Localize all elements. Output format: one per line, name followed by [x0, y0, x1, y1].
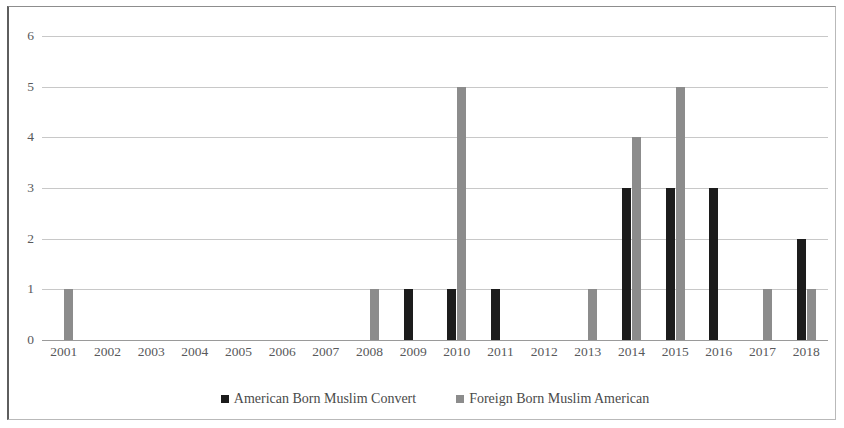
gray-square-icon — [456, 395, 464, 403]
bar — [676, 87, 685, 340]
x-tick-label: 2014 — [610, 344, 654, 360]
year-group — [86, 36, 130, 340]
bar — [64, 289, 73, 340]
chart-legend: American Born Muslim ConvertForeign Born… — [42, 388, 828, 410]
year-group — [348, 36, 392, 340]
year-group — [566, 36, 610, 340]
bar — [370, 289, 379, 340]
bar — [457, 87, 466, 340]
x-tick-label: 2008 — [348, 344, 392, 360]
year-group — [217, 36, 261, 340]
x-tick-label: 2005 — [217, 344, 261, 360]
y-axis: 0123456 — [8, 36, 34, 340]
year-group — [479, 36, 523, 340]
x-tick-label: 2015 — [653, 344, 697, 360]
x-tick-label: 2013 — [566, 344, 610, 360]
y-tick-label: 1 — [8, 283, 34, 297]
x-tick-label: 2001 — [42, 344, 86, 360]
x-tick-label: 2006 — [260, 344, 304, 360]
y-tick-label: 6 — [8, 29, 34, 43]
legend-label: American Born Muslim Convert — [234, 392, 416, 406]
year-group — [610, 36, 654, 340]
y-tick-label: 0 — [8, 333, 34, 347]
bar — [491, 289, 500, 340]
bar — [763, 289, 772, 340]
x-tick-label: 2003 — [129, 344, 173, 360]
legend-entry: Foreign Born Muslim American — [456, 392, 649, 406]
x-tick-label: 2012 — [522, 344, 566, 360]
bar — [404, 289, 413, 340]
year-group — [129, 36, 173, 340]
y-tick-label: 4 — [8, 131, 34, 145]
legend-label: Foreign Born Muslim American — [469, 392, 649, 406]
black-square-icon — [221, 395, 229, 403]
year-group — [391, 36, 435, 340]
year-group — [653, 36, 697, 340]
year-group — [42, 36, 86, 340]
bars-layer — [42, 36, 828, 340]
year-group — [304, 36, 348, 340]
year-group — [435, 36, 479, 340]
bar — [588, 289, 597, 340]
bar — [447, 289, 456, 340]
bar — [797, 239, 806, 340]
x-tick-label: 2002 — [86, 344, 130, 360]
bar — [666, 188, 675, 340]
bar — [709, 188, 718, 340]
y-tick-label: 3 — [8, 181, 34, 195]
year-group — [697, 36, 741, 340]
gridline-0 — [42, 340, 828, 341]
x-tick-label: 2011 — [479, 344, 523, 360]
x-tick-label: 2004 — [173, 344, 217, 360]
x-tick-label: 2016 — [697, 344, 741, 360]
legend-entry: American Born Muslim Convert — [221, 392, 416, 406]
year-group — [522, 36, 566, 340]
year-group — [741, 36, 785, 340]
plot-area — [42, 36, 828, 340]
x-tick-label: 2017 — [741, 344, 785, 360]
x-tick-label: 2010 — [435, 344, 479, 360]
x-tick-label: 2018 — [784, 344, 828, 360]
year-group — [173, 36, 217, 340]
bar — [622, 188, 631, 340]
y-tick-label: 5 — [8, 80, 34, 94]
year-group — [784, 36, 828, 340]
bar — [807, 289, 816, 340]
year-group — [260, 36, 304, 340]
x-tick-label: 2007 — [304, 344, 348, 360]
x-tick-label: 2009 — [391, 344, 435, 360]
x-axis: 2001200220032004200520062007200820092010… — [42, 344, 828, 364]
bar — [632, 137, 641, 340]
bar-chart-figure: 0123456 20012002200320042005200620072008… — [0, 0, 844, 428]
y-tick-label: 2 — [8, 232, 34, 246]
